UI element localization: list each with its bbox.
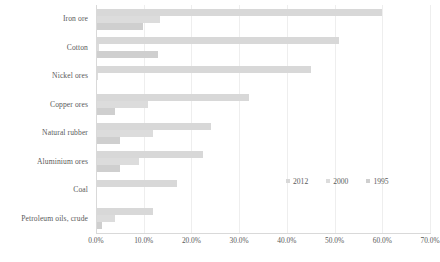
- x-tick-label: 70.0%: [420, 236, 439, 246]
- bar-2012-aluminium-ores: [96, 151, 203, 158]
- category-label: Natural rubber: [42, 128, 88, 137]
- category-label: Petroleum oils, crude: [21, 214, 88, 223]
- plot-area: [96, 5, 430, 233]
- gridline: [430, 5, 431, 233]
- legend-item-1995[interactable]: 1995: [366, 177, 388, 186]
- category-axis: Iron oreCottonNickel oresCopper oresNatu…: [0, 5, 92, 233]
- legend-item-2012[interactable]: 2012: [286, 177, 308, 186]
- value-axis-line: [96, 5, 97, 233]
- bar-1995-cotton: [96, 51, 158, 58]
- legend-item-2000[interactable]: 2000: [326, 177, 348, 186]
- category-label: Aluminium ores: [37, 157, 88, 166]
- x-tick-label: 40.0%: [277, 236, 296, 246]
- x-tick-label: 60.0%: [373, 236, 392, 246]
- x-tick-label: 10.0%: [134, 236, 153, 246]
- x-axis-tick-labels: 0.0%10.0%20.0%30.0%40.0%50.0%60.0%70.0%: [0, 236, 439, 250]
- legend-label: 1995: [373, 177, 388, 186]
- legend-swatch-icon: [286, 179, 290, 183]
- bar-1995-iron-ore: [96, 23, 143, 30]
- gridline: [382, 5, 383, 233]
- bar-2000-petroleum-oils-crude: [96, 215, 115, 222]
- category-label: Coal: [73, 185, 88, 194]
- bar-2012-coal: [96, 180, 177, 187]
- x-tick-label: 20.0%: [182, 236, 201, 246]
- bar-2012-copper-ores: [96, 94, 249, 101]
- category-label: Iron ore: [63, 14, 88, 23]
- bar-2012-natural-rubber: [96, 123, 211, 130]
- bar-1995-copper-ores: [96, 108, 115, 115]
- category-label: Nickel ores: [52, 71, 88, 80]
- bar-2000-aluminium-ores: [96, 158, 139, 165]
- category-axis-line: [96, 233, 431, 234]
- category-label: Cotton: [67, 43, 88, 52]
- chart-legend: 201220001995: [286, 174, 389, 188]
- bar-1995-aluminium-ores: [96, 165, 120, 172]
- x-tick-label: 30.0%: [230, 236, 249, 246]
- bar-2000-copper-ores: [96, 101, 148, 108]
- bar-2012-iron-ore: [96, 9, 382, 16]
- bar-2012-cotton: [96, 37, 339, 44]
- x-tick-label: 50.0%: [325, 236, 344, 246]
- bar-1995-natural-rubber: [96, 137, 120, 144]
- bar-2000-iron-ore: [96, 16, 160, 23]
- legend-label: 2012: [293, 177, 308, 186]
- x-tick-label: 0.0%: [88, 236, 103, 246]
- bar-2000-natural-rubber: [96, 130, 153, 137]
- bar-2012-nickel-ores: [96, 66, 311, 73]
- legend-label: 2000: [333, 177, 348, 186]
- bar-2012-petroleum-oils-crude: [96, 208, 153, 215]
- legend-swatch-icon: [326, 179, 330, 183]
- legend-swatch-icon: [366, 179, 370, 183]
- category-label: Copper ores: [50, 100, 88, 109]
